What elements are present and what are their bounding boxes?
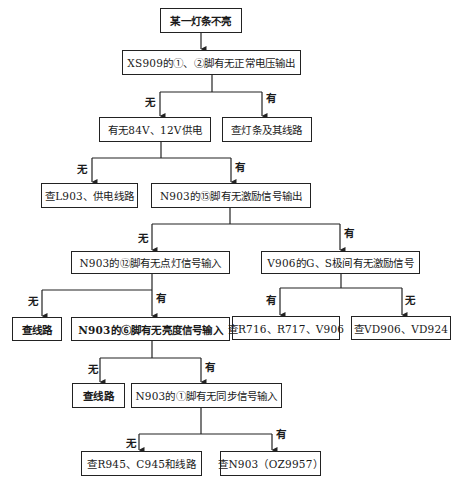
node-check-r716-r717-v906: 查R716、R717、V906 <box>232 316 340 340</box>
edge-label-no: 无 <box>28 295 38 307</box>
edge-label-no: 无 <box>405 294 415 306</box>
edge-label-yes: 有 <box>156 292 166 304</box>
flowchart-canvas: 某一灯条不亮 XS909的①、②脚有无正常电压输出 有无84V、12V供电 查灯… <box>0 0 461 490</box>
edge-label-no: 无 <box>77 163 87 175</box>
node-check-n903-oz9957: 查N903（OZ9957） <box>220 451 321 476</box>
node-lightbar-not-lit: 某一灯条不亮 <box>160 8 242 33</box>
edge-label-yes: 有 <box>344 227 354 239</box>
edge-label-no: 无 <box>145 96 155 108</box>
edge-label-yes: 有 <box>266 92 276 104</box>
node-n903-pin1-sync-check: N903的①脚有无同步信号输入 <box>131 383 282 408</box>
node-check-wiring-2: 查线路 <box>72 383 125 408</box>
node-xs909-voltage-check: XS909的①、②脚有无正常电压输出 <box>122 50 301 75</box>
node-v906-gs-drive-check: V906的G、S极间有无激励信号 <box>261 251 420 274</box>
node-check-r945-c945-wiring: 查R945、C945和线路 <box>81 451 202 476</box>
node-check-lightbar-wiring: 查灯条及其线路 <box>222 117 312 142</box>
edge-label-yes: 有 <box>266 294 276 306</box>
node-84v-12v-supply-check: 有无84V、12V供电 <box>99 117 211 142</box>
node-check-vd906-vd924: 查VD906、VD924 <box>351 316 451 340</box>
edge-label-yes: 有 <box>205 361 215 373</box>
edge-label-yes: 有 <box>276 428 286 440</box>
node-n903-pin12-enable-check: N903的⑫脚有无点灯信号输入 <box>71 251 230 274</box>
node-check-l903-supply: 查L903、供电线路 <box>41 183 138 208</box>
node-check-wiring-1: 查线路 <box>12 317 62 341</box>
edge-label-no: 无 <box>126 437 136 449</box>
edge-label-no: 无 <box>138 232 148 244</box>
node-n903-pin6-brightness-check: N903的⑥脚有无亮度信号输入 <box>71 317 230 341</box>
edge-label-no: 无 <box>88 363 98 375</box>
edge-label-yes: 有 <box>235 161 245 173</box>
node-n903-pin15-drive-check: N903的⑮脚有无激励信号输出 <box>151 183 311 208</box>
